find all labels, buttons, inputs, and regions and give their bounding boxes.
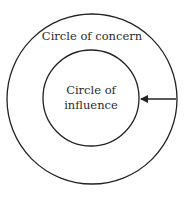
circle-diagram: Circle of concern Circle of influence [0, 0, 187, 197]
inner-circle-label-line2: influence [64, 98, 118, 112]
inner-circle-label-line1: Circle of [66, 83, 116, 97]
outer-circle-label: Circle of concern [42, 29, 143, 43]
